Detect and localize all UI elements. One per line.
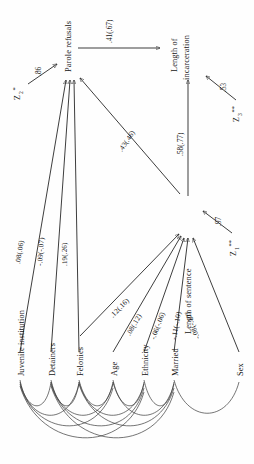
node-felonies: Felonies (76, 347, 85, 376)
node-length-of-incarceration-line2: incarceration (182, 34, 191, 80)
node-age: Age (110, 362, 119, 376)
disturbance-z2-name: Z (13, 95, 22, 100)
node-sex: Sex (236, 362, 245, 376)
path-diagram-figure: Parole refusals Length of sentence Lengt… (0, 0, 254, 464)
node-married: Married (171, 348, 180, 376)
disturbance-z2-subscript: 2 (18, 91, 24, 94)
node-parole-refusals: Parole refusals (64, 21, 73, 72)
coef-z2-to-parole: .86 (35, 66, 43, 76)
corr-arc (51, 380, 79, 406)
coef-felonies-to-parole: .19(.26) (61, 242, 69, 266)
corr-arc (51, 382, 113, 415)
node-detainers: Detainers (48, 343, 57, 376)
coef-age-to-sentence: .08(.12) (125, 312, 144, 337)
disturbance-z2-stars: * (11, 87, 18, 90)
corr-arc (20, 382, 79, 415)
disturbance-z3-subscript: 3 (237, 113, 243, 116)
disturbance-z1-name: Z (229, 251, 238, 256)
disturbance-z3-stars: ** (230, 106, 237, 113)
disturbance-z3-name: Z (232, 117, 241, 122)
coef-juvenile-to-parole: .08(.06) (14, 239, 26, 264)
node-ethnicity: Ethnicity (141, 344, 150, 376)
coef-ethnicity-to-sentence: -.06(-.06) (149, 311, 166, 341)
corr-arc (113, 380, 144, 406)
disturbance-label-group: Z 2 * .86 Z 3 ** .53 Z 1 ** .97 (11, 66, 243, 256)
diagram-canvas: Parole refusals Length of sentence Lengt… (0, 0, 254, 464)
corr-arc (113, 382, 174, 415)
edge-juvenile-to-parole (20, 80, 66, 352)
corr-arc (144, 380, 174, 406)
node-length-of-incarceration-line1: Length of (170, 38, 179, 72)
corr-arc (20, 380, 51, 406)
coef-z1-to-sentence: .97 (215, 216, 223, 226)
disturbance-z1-subscript: 1 (234, 247, 240, 250)
node-juvenile-institution: Juvenile institution (17, 309, 26, 376)
corr-arc (174, 380, 239, 413)
coef-sentence-to-incarceration: .58(.77) (177, 132, 185, 156)
corr-arc (79, 380, 113, 406)
correlation-arc-group (20, 380, 239, 438)
disturbance-z3: Z 3 ** (230, 106, 243, 122)
edge-felonies-to-parole (74, 80, 79, 352)
disturbance-z1: Z 1 ** (227, 240, 240, 256)
coef-parole-to-incarceration: .41(.67) (106, 19, 114, 43)
coef-z3-to-incarceration: .53 (220, 82, 228, 92)
corr-arc (51, 384, 144, 426)
disturbance-z1-stars: ** (227, 240, 234, 247)
coef-married-to-sentence: -.11(-.10) (170, 311, 183, 341)
coef-felonies-to-sentence: .12(.16) (109, 297, 131, 320)
disturbance-z2: Z 2 * (11, 87, 24, 100)
coef-detainers-to-parole: -.09(-.07) (36, 237, 46, 267)
edge-group (20, 48, 239, 352)
edge-detainers-to-parole (51, 80, 70, 352)
